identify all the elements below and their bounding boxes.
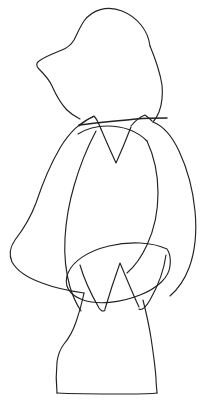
background-plate (0, 0, 205, 411)
drawing-canvas (0, 0, 205, 411)
contour-drawing (0, 0, 205, 411)
